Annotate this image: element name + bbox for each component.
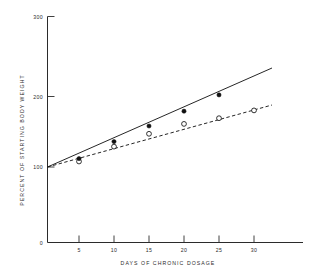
data-point-open-20 <box>182 122 187 127</box>
x-tick-label-10: 10 <box>111 247 117 253</box>
y-tick-label-100: 100 <box>33 164 43 170</box>
data-point-open-10 <box>112 144 117 149</box>
line-chart-plot: 300 200 100 0 5 10 15 20 25 30 DAYS OF C… <box>0 0 317 275</box>
data-point-filled-10 <box>112 140 116 144</box>
data-point-open-25 <box>217 116 222 121</box>
x-tick-label-30: 30 <box>251 247 257 253</box>
y-tick-label-200: 200 <box>33 94 43 100</box>
y-tick-label-300: 300 <box>33 14 43 20</box>
x-axis-title: DAYS OF CHRONIC DOSAGE <box>121 260 216 266</box>
data-point-open-30 <box>252 108 257 113</box>
dashed-trend-line <box>48 105 273 167</box>
data-point-filled-15 <box>147 124 151 128</box>
x-tick-label-15: 15 <box>146 247 152 253</box>
x-tick-label-25: 25 <box>216 247 222 253</box>
solid-trend-line <box>48 68 273 167</box>
x-tick-label-5: 5 <box>77 247 80 253</box>
y-axis-title: PERCENT OF STARTING BODY WEIGHT <box>19 74 25 205</box>
data-point-open-15 <box>147 131 152 136</box>
data-point-filled-20 <box>182 109 186 113</box>
data-point-filled-5 <box>77 157 81 161</box>
x-tick-label-20: 20 <box>181 247 187 253</box>
chart-figure: 300 200 100 0 5 10 15 20 25 30 DAYS OF C… <box>0 0 317 275</box>
y-tick-label-0: 0 <box>40 240 43 246</box>
data-point-filled-25 <box>217 93 221 97</box>
